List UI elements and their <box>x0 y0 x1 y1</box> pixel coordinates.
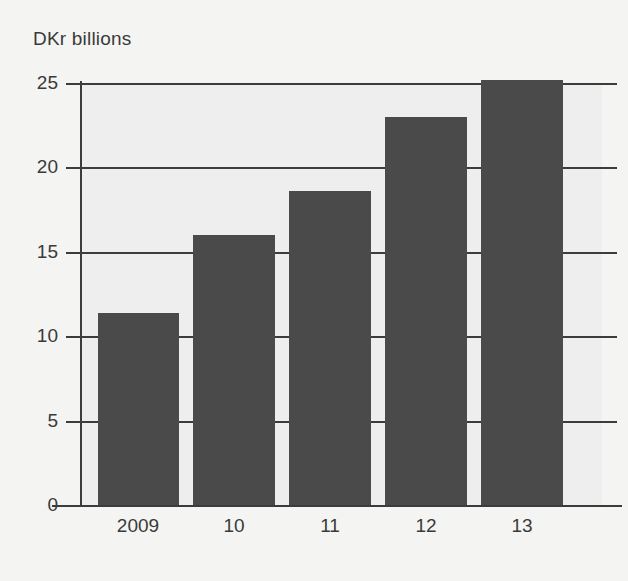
y-tick-label-15: 15 <box>16 241 58 263</box>
y-tick-mark-right-25 <box>602 83 617 85</box>
y-tick-label-10: 10 <box>16 325 58 347</box>
y-tick-label-25: 25 <box>16 72 58 94</box>
bar-2009[interactable] <box>98 313 179 505</box>
y-tick-mark-5 <box>66 421 81 423</box>
y-tick-mark-15 <box>66 252 81 254</box>
bar-13[interactable] <box>481 80 563 505</box>
y-tick-mark-right-20 <box>602 167 617 169</box>
y-tick-label-5: 5 <box>16 410 58 432</box>
y-tick-mark-20 <box>66 167 81 169</box>
y-axis-line <box>80 81 82 507</box>
bar-chart-figure: DKr billions 25 20 15 10 5 0 2009 10 11 … <box>0 0 628 581</box>
bar-12[interactable] <box>385 117 467 505</box>
x-axis-line <box>52 505 622 507</box>
chart-title: DKr billions <box>33 28 132 50</box>
y-tick-label-0: 0 <box>16 494 58 516</box>
bar-10[interactable] <box>193 235 275 505</box>
y-tick-mark-0 <box>66 505 81 507</box>
y-tick-mark-right-10 <box>602 336 617 338</box>
x-tick-label-13: 13 <box>462 515 582 537</box>
bar-11[interactable] <box>289 191 371 505</box>
y-tick-mark-25 <box>66 83 81 85</box>
y-tick-label-20: 20 <box>16 156 58 178</box>
y-tick-mark-right-5 <box>602 421 617 423</box>
y-tick-mark-right-15 <box>602 252 617 254</box>
plot-area <box>80 83 602 505</box>
y-tick-mark-10 <box>66 336 81 338</box>
